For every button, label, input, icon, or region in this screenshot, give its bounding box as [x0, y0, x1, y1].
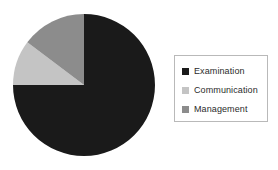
legend-item-management[interactable]: Management: [182, 100, 267, 118]
square-swatch-icon: [182, 87, 189, 94]
square-swatch-icon: [182, 106, 189, 113]
legend-item-label: Examination: [194, 66, 245, 76]
pie-graphic: [12, 13, 156, 157]
pie-slice-group: [13, 14, 155, 156]
legend-item-label: Communication: [194, 85, 258, 95]
pie-chart-figure: Examination Communication Management: [0, 0, 278, 170]
chart-legend: Examination Communication Management: [174, 55, 268, 122]
legend-item-communication[interactable]: Communication: [182, 81, 267, 99]
square-swatch-icon: [182, 68, 189, 75]
pie-svg: [12, 13, 156, 157]
legend-item-label: Management: [194, 104, 248, 114]
legend-item-examination[interactable]: Examination: [182, 62, 267, 80]
